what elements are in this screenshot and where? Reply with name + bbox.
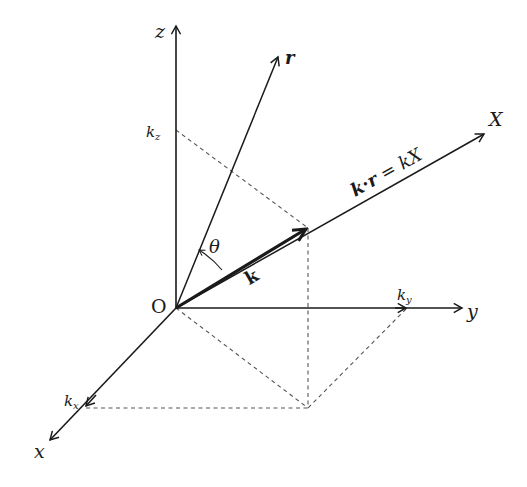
x-axis (50, 308, 176, 440)
r-vector (176, 57, 278, 308)
k-vector (176, 229, 306, 308)
origin-label: O (151, 295, 167, 317)
y-axis-label: y (466, 300, 478, 322)
equation-label: k·r = kX (347, 143, 427, 201)
vector-diagram: z y x X O r k θ kz ky kx k·r = kX (0, 0, 527, 487)
X-axis-label: X (487, 108, 504, 130)
theta-label: θ (209, 236, 220, 257)
origin-to-base-dash (176, 308, 308, 408)
kz-label: kz (146, 123, 161, 142)
k-vector-label: k (241, 264, 263, 289)
ky-diagonal-dash (308, 309, 406, 408)
X-line (176, 134, 484, 308)
kx-label: kx (64, 392, 79, 411)
x-axis-label: x (34, 440, 45, 462)
ky-label: ky (397, 286, 412, 305)
r-vector-label: r (285, 47, 296, 68)
z-axis-label: z (154, 20, 166, 42)
